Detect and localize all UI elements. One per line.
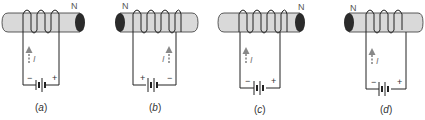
caption-a: (a) bbox=[35, 102, 47, 113]
current-label: I bbox=[250, 55, 253, 65]
panel-a: N I − + (a) bbox=[0, 0, 106, 120]
terminal-right-sign: + bbox=[271, 76, 276, 86]
terminal-left-sign: − bbox=[27, 73, 32, 83]
north-pole-label: N bbox=[298, 2, 305, 12]
terminal-right-sign: + bbox=[397, 77, 402, 87]
current-label: I bbox=[376, 56, 379, 66]
electromagnet-diagram-d bbox=[318, 0, 424, 120]
current-label: I bbox=[162, 54, 165, 64]
north-pole-label: N bbox=[71, 1, 78, 11]
panel-d: N I − + (d) bbox=[318, 0, 424, 120]
terminal-left-sign: − bbox=[371, 77, 376, 87]
terminal-right-sign: − bbox=[167, 73, 172, 83]
caption-b: (b) bbox=[149, 102, 161, 113]
terminal-right-sign: + bbox=[52, 73, 57, 83]
panel-c: N I − + (c) bbox=[212, 0, 318, 120]
electromagnet-diagram-a bbox=[0, 0, 106, 120]
terminal-left-sign: + bbox=[140, 73, 145, 83]
electromagnet-diagram-c bbox=[212, 0, 318, 120]
north-pole-label: N bbox=[122, 1, 129, 11]
current-label: I bbox=[33, 54, 36, 64]
caption-c: (c) bbox=[254, 104, 266, 115]
panel-b: N I + − (b) bbox=[106, 0, 212, 120]
terminal-left-sign: − bbox=[245, 76, 250, 86]
caption-d: (d) bbox=[380, 104, 392, 115]
north-pole-label: N bbox=[350, 3, 357, 13]
